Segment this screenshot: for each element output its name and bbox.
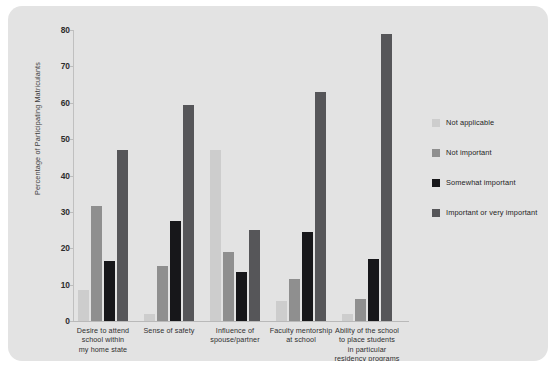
y-tick-mark [70, 103, 73, 104]
legend-swatch-icon [432, 149, 440, 157]
bar[interactable] [210, 150, 221, 321]
chart-panel: Percentage of Participating Matriculants… [8, 6, 548, 361]
y-tick-label: 30 [40, 207, 70, 217]
bar[interactable] [342, 314, 353, 321]
y-tick-mark [70, 139, 73, 140]
bar[interactable] [249, 230, 260, 321]
y-tick-label: 80 [40, 25, 70, 35]
bar-group [276, 30, 328, 321]
bar[interactable] [91, 206, 102, 321]
y-tick-mark [70, 212, 73, 213]
y-tick-mark [70, 321, 73, 322]
x-axis-label-line: to place students [325, 335, 409, 344]
bar[interactable] [157, 266, 168, 321]
bar[interactable] [315, 92, 326, 321]
legend-swatch-icon [432, 179, 440, 187]
legend-item[interactable]: Important or very important [432, 208, 544, 238]
bar[interactable] [117, 150, 128, 321]
legend-swatch-icon [432, 119, 440, 127]
y-tick-mark [70, 66, 73, 67]
x-axis-label-line: residency programs [325, 354, 409, 361]
y-tick-mark [70, 176, 73, 177]
legend-item[interactable]: Not important [432, 148, 544, 178]
bar[interactable] [368, 259, 379, 321]
x-axis-label-line: school within [61, 335, 145, 344]
y-axis-ticks: 80706050403020100 [36, 30, 70, 321]
bar-group [210, 30, 262, 321]
bar[interactable] [104, 261, 115, 321]
y-tick-mark [70, 30, 73, 31]
plot-area [74, 30, 404, 321]
x-axis-label-line: Ability of the school [325, 326, 409, 335]
legend-label: Not applicable [446, 118, 494, 127]
bar[interactable] [355, 299, 366, 321]
bar[interactable] [78, 290, 89, 321]
legend-label: Somewhat important [446, 178, 516, 187]
bar-group [144, 30, 196, 321]
bar[interactable] [289, 279, 300, 321]
y-tick-mark [70, 248, 73, 249]
bar[interactable] [223, 252, 234, 321]
y-tick-label: 10 [40, 280, 70, 290]
bar[interactable] [144, 314, 155, 321]
x-axis-label-line: in particular [325, 345, 409, 354]
y-tick-label: 40 [40, 171, 70, 181]
legend-item[interactable]: Not applicable [432, 118, 544, 148]
bar[interactable] [302, 232, 313, 321]
bar[interactable] [170, 221, 181, 321]
bar-group [78, 30, 130, 321]
x-axis-label-line: my home state [61, 345, 145, 354]
bar[interactable] [276, 301, 287, 321]
bar[interactable] [381, 34, 392, 321]
x-axis-label: Ability of the schoolto place studentsin… [325, 326, 409, 361]
y-tick-label: 0 [40, 316, 70, 326]
legend-label: Important or very important [446, 208, 537, 217]
x-axis-line [73, 321, 409, 322]
y-tick-label: 60 [40, 98, 70, 108]
y-tick-label: 50 [40, 134, 70, 144]
legend-item[interactable]: Somewhat important [432, 178, 544, 208]
y-tick-mark [70, 285, 73, 286]
bar-group [342, 30, 394, 321]
legend-label: Not important [446, 148, 492, 157]
legend-swatch-icon [432, 209, 440, 217]
chart-legend: Not applicableNot importantSomewhat impo… [432, 118, 544, 238]
bar[interactable] [183, 105, 194, 321]
bar[interactable] [236, 272, 247, 321]
y-tick-label: 20 [40, 243, 70, 253]
y-tick-label: 70 [40, 61, 70, 71]
